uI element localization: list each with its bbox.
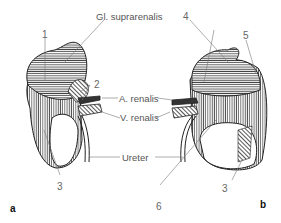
left-kidney xyxy=(27,42,102,168)
number-3-left: 3 xyxy=(57,182,63,192)
label-gl-suprarenalis: Gl. suprarenalis xyxy=(96,12,163,22)
right-kidney xyxy=(172,48,267,170)
number-3-right: 3 xyxy=(222,184,228,194)
left-v-renalis xyxy=(78,104,102,116)
panel-label-b: b xyxy=(260,200,266,210)
number-1: 1 xyxy=(42,30,48,40)
number-5: 5 xyxy=(243,31,249,41)
label-ureter: Ureter xyxy=(122,153,148,163)
label-a-renalis: A. renalis xyxy=(119,94,159,104)
right-adrenal-gland xyxy=(192,48,260,96)
right-part-3 xyxy=(238,126,252,162)
number-6: 6 xyxy=(156,202,162,212)
panel-label-a: a xyxy=(10,204,16,214)
number-4: 4 xyxy=(183,12,189,22)
number-2: 2 xyxy=(94,80,100,90)
label-v-renalis: V. renalis xyxy=(120,113,159,123)
